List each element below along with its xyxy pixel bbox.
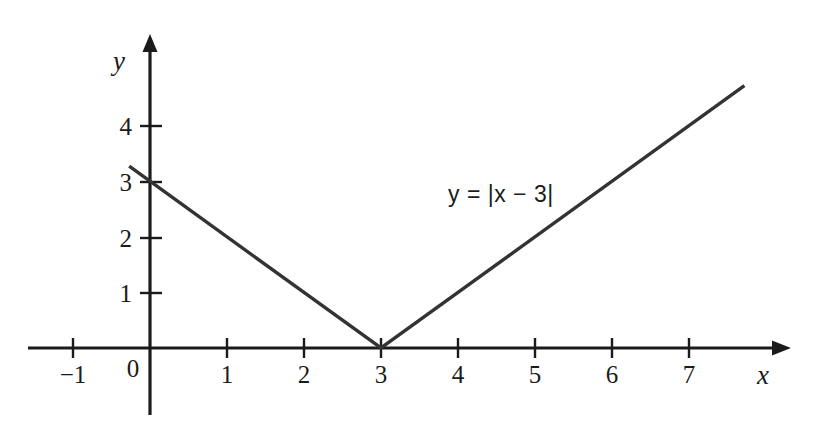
absolute-value-curve bbox=[129, 86, 744, 348]
y-axis-label: y bbox=[113, 48, 125, 75]
y-tick-label-2: 2 bbox=[92, 226, 132, 251]
absolute-value-graph-figure: −1 0 1 2 3 4 5 6 7 1 2 3 4 y x y = |x − … bbox=[0, 0, 824, 432]
x-tick-label-2: 2 bbox=[284, 362, 324, 387]
x-tick-label-5: 5 bbox=[515, 362, 555, 387]
x-tick-label-3: 3 bbox=[361, 362, 401, 387]
x-tick-label-4: 4 bbox=[438, 362, 478, 387]
x-tick-label--1: −1 bbox=[53, 362, 93, 387]
y-tick-label-1: 1 bbox=[92, 281, 132, 306]
curve-equation-label: y = |x − 3| bbox=[448, 183, 554, 206]
y-tick-label-4: 4 bbox=[92, 114, 132, 139]
x-tick-label-1: 1 bbox=[207, 362, 247, 387]
x-tick-label-7: 7 bbox=[669, 362, 709, 387]
x-axis-arrow-icon bbox=[772, 341, 791, 356]
x-axis-label: x bbox=[757, 362, 769, 389]
x-tick-label-0: 0 bbox=[113, 356, 153, 381]
y-axis-arrow-icon bbox=[143, 34, 158, 52]
x-axis bbox=[28, 341, 791, 356]
x-tick-label-6: 6 bbox=[592, 362, 632, 387]
y-tick-label-3: 3 bbox=[92, 170, 132, 195]
